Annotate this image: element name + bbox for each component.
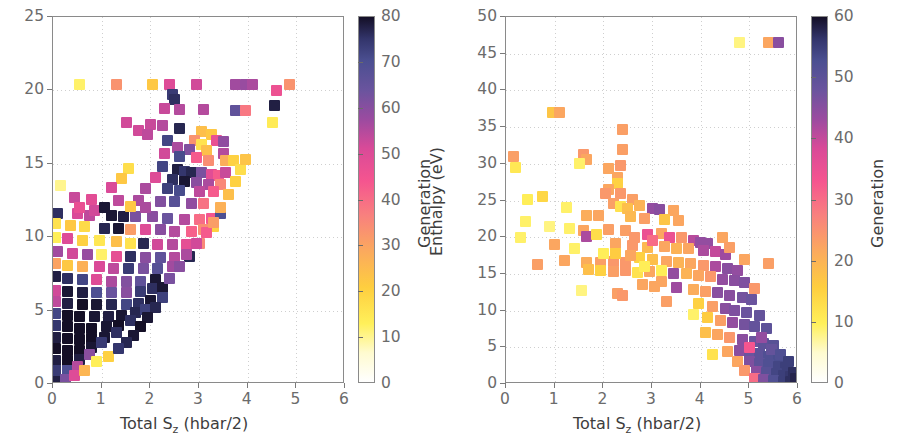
- figure-root: 05101520250123456 Enthalpy (eV) Total Sz…: [0, 0, 897, 434]
- scatter-marker: [191, 152, 202, 163]
- scatter-marker: [688, 284, 699, 295]
- x-tick-label: 2: [134, 390, 164, 408]
- scatter-marker: [683, 243, 694, 254]
- scatter-marker: [52, 218, 61, 229]
- scatter-marker: [111, 327, 122, 338]
- scatter-marker: [583, 264, 594, 275]
- scatter-marker: [610, 238, 621, 249]
- x-tick-mark: [295, 383, 296, 388]
- x-tick-label: 1: [86, 390, 116, 408]
- scatter-marker: [181, 249, 192, 260]
- x-tick-mark: [797, 383, 798, 388]
- y-tick-label: 50: [463, 7, 497, 25]
- scatter-marker: [155, 224, 166, 235]
- scatter-marker: [62, 298, 73, 309]
- scatter-marker: [186, 226, 197, 237]
- scatter-marker: [157, 161, 168, 172]
- x-tick-label: 0: [490, 390, 520, 408]
- scatter-marker: [544, 221, 555, 232]
- scatter-marker: [62, 233, 73, 244]
- scatter-marker: [125, 224, 136, 235]
- x-tick-mark: [651, 383, 652, 388]
- scatter-marker: [702, 312, 713, 323]
- x-axis-title-prefix-left: Total S: [120, 414, 173, 433]
- y-tick-label: 25: [10, 7, 44, 25]
- scatter-marker: [79, 365, 90, 376]
- x-tick-mark: [748, 383, 749, 388]
- x-tick-label: 0: [37, 390, 67, 408]
- scatter-marker: [661, 296, 672, 307]
- colorbar-tick-label: 20: [834, 252, 854, 270]
- scatter-marker: [659, 241, 670, 252]
- scatter-marker: [96, 337, 107, 348]
- scatter-marker: [111, 236, 122, 247]
- scatter-marker: [174, 123, 185, 134]
- scatter-marker: [608, 266, 619, 277]
- scatter-marker: [74, 311, 85, 322]
- scatter-marker: [790, 373, 797, 383]
- scatter-marker: [595, 265, 606, 276]
- scatter-marker: [74, 323, 85, 334]
- scatter-marker: [94, 261, 105, 272]
- scatter-marker: [179, 214, 190, 225]
- colorbar-tick-label: 50: [381, 145, 401, 163]
- scatter-marker: [91, 299, 102, 310]
- y-tick-mark: [500, 236, 505, 237]
- scatter-marker: [194, 186, 205, 197]
- scatter-marker: [218, 136, 229, 147]
- scatter-marker: [267, 117, 278, 128]
- scatter-marker: [174, 151, 185, 162]
- colorbar-tick-label: 10: [834, 313, 854, 331]
- scatter-marker: [77, 235, 88, 246]
- scatter-marker: [727, 317, 738, 328]
- y-tick-mark: [47, 16, 52, 17]
- scatter-marker: [91, 274, 102, 285]
- scatter-marker: [167, 239, 178, 250]
- x-tick-mark: [700, 383, 701, 388]
- scatter-marker: [121, 117, 132, 128]
- scatter-marker: [159, 148, 170, 159]
- y-tick-mark: [500, 273, 505, 274]
- scatter-marker: [581, 210, 592, 221]
- scatter-marker: [140, 202, 151, 213]
- scatter-marker: [673, 215, 684, 226]
- scatter-marker: [174, 261, 185, 272]
- scatter-marker: [284, 79, 295, 90]
- colorbar-tick-label: 80: [381, 7, 401, 25]
- scatter-marker: [698, 260, 709, 271]
- scatter-marker: [698, 245, 709, 256]
- scatter-marker: [564, 223, 575, 234]
- y-tick-mark: [47, 163, 52, 164]
- y-tick-mark: [47, 310, 52, 311]
- scatter-marker: [162, 213, 173, 224]
- x-tick-label: 5: [280, 390, 310, 408]
- scatter-marker: [121, 276, 132, 287]
- scatter-marker: [208, 186, 219, 197]
- x-tick-label: 4: [685, 390, 715, 408]
- scatter-marker: [138, 263, 149, 274]
- plot-area-right[interactable]: [505, 16, 797, 383]
- y-tick-label: 30: [463, 154, 497, 172]
- scatter-marker: [74, 202, 85, 213]
- scatter-marker: [574, 158, 585, 169]
- scatter-marker: [639, 213, 650, 224]
- scatter-marker: [62, 273, 73, 284]
- scatter-marker: [152, 263, 163, 274]
- scatter-marker: [65, 220, 76, 231]
- scatter-marker: [91, 287, 102, 298]
- plot-area-left[interactable]: [52, 16, 344, 383]
- colorbar-tick-label: 60: [381, 99, 401, 117]
- x-tick-label: 4: [232, 390, 262, 408]
- x-tick-mark: [602, 383, 603, 388]
- scatter-marker: [715, 315, 726, 326]
- scatter-marker: [754, 310, 765, 321]
- scatter-marker: [191, 79, 202, 90]
- colorbar-tick-label: 60: [834, 7, 854, 25]
- scatter-marker: [532, 259, 543, 270]
- panel-left: 05101520250123456 Enthalpy (eV) Total Sz…: [0, 0, 450, 434]
- scatter-marker: [639, 261, 650, 272]
- scatter-marker: [140, 252, 151, 263]
- scatter-marker: [108, 263, 119, 274]
- y-tick-mark: [47, 236, 52, 237]
- scatter-marker: [52, 296, 61, 307]
